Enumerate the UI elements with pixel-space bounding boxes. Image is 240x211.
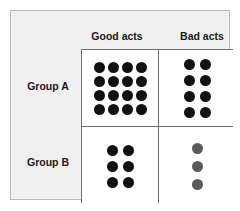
dot-cluster <box>82 127 158 205</box>
count-dot <box>192 179 203 190</box>
count-dot <box>136 76 147 87</box>
count-dot <box>200 75 211 86</box>
count-dot <box>108 104 119 115</box>
column-header-bad-acts: Bad acts <box>163 28 240 44</box>
count-dot <box>200 59 211 70</box>
cell-group-a-bad-acts <box>159 50 235 126</box>
count-dot <box>107 177 118 188</box>
dot-cluster <box>82 50 158 126</box>
dot-grid <box>181 56 213 120</box>
count-dot <box>184 107 195 118</box>
count-dot <box>122 90 133 101</box>
count-dot <box>136 90 147 101</box>
dot-cluster <box>159 127 235 205</box>
count-dot <box>94 104 105 115</box>
row-label-group-a: Group A <box>19 80 77 92</box>
count-dot <box>107 145 118 156</box>
dot-grid <box>189 139 205 193</box>
dot-cluster <box>159 50 235 126</box>
row-label-group-b: Group B <box>19 156 77 168</box>
contingency-grid <box>81 49 233 203</box>
count-dot <box>107 161 118 172</box>
count-dot <box>122 62 133 73</box>
count-dot <box>94 76 105 87</box>
count-dot <box>108 76 119 87</box>
count-dot <box>184 59 195 70</box>
count-dot <box>123 161 134 172</box>
cell-group-b-bad-acts <box>159 127 235 205</box>
count-dot <box>122 104 133 115</box>
count-dot <box>192 143 203 154</box>
count-dot <box>122 76 133 87</box>
cell-group-b-good-acts <box>82 127 158 205</box>
count-dot <box>123 145 134 156</box>
figure-panel: Good acts Bad acts Group A Group B <box>10 10 230 200</box>
count-dot <box>200 91 211 102</box>
count-dot <box>94 90 105 101</box>
count-dot <box>184 75 195 86</box>
count-dot <box>108 90 119 101</box>
count-dot <box>192 161 203 172</box>
contingency-figure: Good acts Bad acts Group A Group B <box>0 0 240 211</box>
dot-grid <box>92 60 148 116</box>
count-dot <box>200 107 211 118</box>
count-dot <box>94 62 105 73</box>
count-dot <box>136 62 147 73</box>
count-dot <box>184 91 195 102</box>
column-header-good-acts: Good acts <box>71 28 163 44</box>
cell-group-a-good-acts <box>82 50 158 126</box>
count-dot <box>108 62 119 73</box>
count-dot <box>136 104 147 115</box>
dot-grid <box>104 142 136 190</box>
count-dot <box>123 177 134 188</box>
